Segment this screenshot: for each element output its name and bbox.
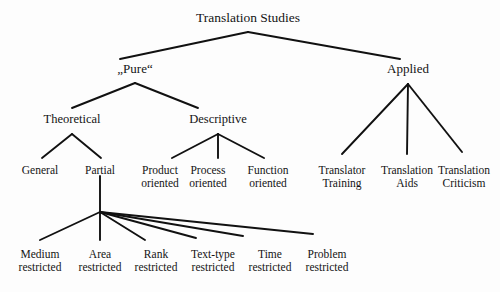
edge-descriptive-to-product (172, 134, 218, 158)
node-theoretical: Theoretical (44, 112, 101, 126)
edge-applied-to-translation-aids (407, 84, 408, 154)
node-medium-restricted: Medium restricted (19, 248, 62, 274)
node-root: Translation Studies (196, 10, 300, 25)
node-applied-label: Applied (387, 61, 429, 76)
node-descriptive-label: Descriptive (189, 112, 247, 126)
node-process-oriented: Process oriented (189, 164, 227, 190)
node-pure-label: „Pure“ (117, 61, 152, 76)
node-theoretical-label: Theoretical (44, 112, 101, 126)
node-translation-aids: Translation Aids (381, 164, 433, 190)
node-pure: „Pure“ (117, 62, 152, 77)
node-problem-restricted-label-2: restricted (306, 261, 349, 274)
node-product-oriented-label-2: oriented (141, 177, 179, 190)
node-translation-criticism: Translation Criticism (438, 164, 490, 190)
node-function-oriented-label-2: oriented (248, 177, 289, 190)
node-translation-criticism-label: Translation (438, 164, 490, 176)
node-medium-restricted-label: Medium (21, 248, 60, 260)
node-product-oriented: Product oriented (141, 164, 179, 190)
edge-theoretical-to-partial (72, 134, 101, 158)
node-general: General (22, 164, 58, 177)
edge-partial-to-medium (40, 212, 100, 240)
node-function-oriented-label: Function (248, 164, 289, 176)
node-area-restricted: Area restricted (79, 248, 122, 274)
node-area-restricted-label: Area (89, 248, 111, 260)
node-rank-restricted: Rank restricted (135, 248, 178, 274)
node-descriptive: Descriptive (189, 112, 247, 126)
node-translator-training: Translator Training (319, 164, 366, 190)
node-translator-training-label-2: Training (319, 177, 366, 190)
node-partial: Partial (85, 164, 115, 177)
node-process-oriented-label-2: oriented (189, 177, 227, 190)
node-time-restricted-label-2: restricted (249, 261, 292, 274)
node-area-restricted-label-2: restricted (79, 261, 122, 274)
node-function-oriented: Function oriented (248, 164, 289, 190)
node-text-type-restricted: Text-type restricted (191, 248, 235, 274)
node-general-label: General (22, 164, 58, 176)
edge-pure-to-theoretical (72, 83, 135, 108)
node-root-label: Translation Studies (196, 10, 300, 25)
node-rank-restricted-label-2: restricted (135, 261, 178, 274)
node-translation-aids-label-2: Aids (381, 177, 433, 190)
node-text-type-restricted-label-2: restricted (191, 261, 235, 274)
edge-root-to-pure (120, 32, 248, 59)
node-problem-restricted-label: Problem (308, 248, 347, 260)
edge-applied-to-translation-criticism (408, 84, 462, 152)
node-rank-restricted-label: Rank (144, 248, 168, 260)
edge-theoretical-to-general (42, 134, 72, 158)
edge-root-to-applied (248, 32, 400, 59)
node-partial-label: Partial (85, 164, 115, 176)
edge-pure-to-descriptive (135, 83, 198, 108)
node-product-oriented-label: Product (142, 164, 178, 176)
node-time-restricted-label: Time (258, 248, 282, 260)
edge-applied-to-translator-training (342, 84, 408, 154)
node-medium-restricted-label-2: restricted (19, 261, 62, 274)
node-time-restricted: Time restricted (249, 248, 292, 274)
edge-descriptive-to-function (218, 134, 264, 158)
node-translation-aids-label: Translation (381, 164, 433, 176)
node-translator-training-label: Translator (319, 164, 366, 176)
node-text-type-restricted-label: Text-type (191, 248, 235, 260)
node-problem-restricted: Problem restricted (306, 248, 349, 274)
node-applied: Applied (387, 62, 429, 77)
translation-studies-diagram: Translation Studies „Pure“ Applied Theor… (0, 0, 500, 292)
node-translation-criticism-label-2: Criticism (438, 177, 490, 190)
node-process-oriented-label: Process (190, 164, 225, 176)
